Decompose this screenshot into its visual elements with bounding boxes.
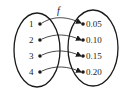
domain-value: 4 (29, 67, 34, 77)
range-dot (81, 38, 85, 42)
mapping-arrows (42, 18, 81, 72)
domain-value: 2 (29, 35, 34, 45)
range-dot (81, 54, 85, 58)
range-value: 0.20 (86, 67, 102, 77)
mapping-arrow (42, 67, 81, 72)
function-label: f (57, 5, 61, 16)
mapping-arrow (42, 51, 81, 56)
domain-ellipse (14, 13, 60, 87)
range-value: 0.15 (86, 51, 102, 61)
domain-dot (38, 70, 42, 74)
range-value: 0.05 (86, 19, 102, 29)
function-mapping-diagram: f 1 2 3 4 0.05 0.10 0.15 0.20 (0, 0, 131, 95)
range-dot (81, 22, 85, 26)
domain-dot (38, 54, 42, 58)
domain-value: 3 (29, 51, 34, 61)
range-elements: 0.05 0.10 0.15 0.20 (81, 19, 102, 77)
domain-elements: 1 2 3 4 (29, 19, 42, 77)
domain-value: 1 (29, 19, 34, 29)
domain-dot (38, 22, 42, 26)
range-dot (81, 70, 85, 74)
mapping-arrow (42, 35, 81, 40)
range-value: 0.10 (86, 35, 102, 45)
domain-dot (38, 38, 42, 42)
